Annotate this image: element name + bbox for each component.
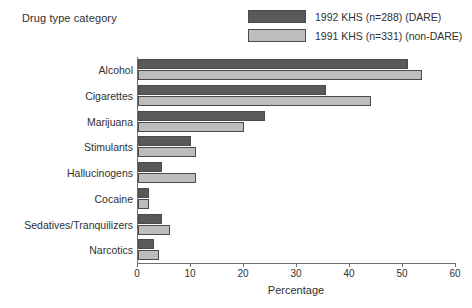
bar-dare[interactable] [138, 85, 326, 95]
category-label: Narcotics [89, 244, 133, 256]
legend-label-non-dare: 1991 KHS (n=331) (non-DARE) [315, 30, 462, 42]
bar-group [138, 111, 456, 134]
category-label: Cigarettes [85, 90, 133, 102]
bar-dare[interactable] [138, 188, 149, 198]
x-tick-label: 60 [449, 268, 460, 279]
legend-label-dare: 1992 KHS (n=288) (DARE) [315, 11, 441, 23]
bar-non-dare[interactable] [138, 199, 149, 209]
x-tick-mark [402, 263, 403, 267]
bar-non-dare[interactable] [138, 225, 170, 235]
legend-swatch-non-dare [248, 29, 306, 42]
x-tick-label: 0 [134, 268, 140, 279]
x-tick-mark [190, 263, 191, 267]
bar-dare[interactable] [138, 59, 408, 69]
category-label: Hallucinogens [67, 167, 133, 179]
category-label: Marijuana [87, 116, 133, 128]
bar-dare[interactable] [138, 111, 265, 121]
x-tick-label: 30 [290, 268, 301, 279]
bar-group [138, 136, 456, 159]
bar-group [138, 162, 456, 185]
bar-dare[interactable] [138, 136, 191, 146]
x-tick-mark [137, 263, 138, 267]
x-tick-label: 10 [184, 268, 195, 279]
category-label: Stimulants [84, 141, 133, 153]
legend-swatch-dare [248, 10, 306, 23]
x-tick-label: 20 [237, 268, 248, 279]
x-tick-mark [296, 263, 297, 267]
bar-group [138, 85, 456, 108]
bar-dare[interactable] [138, 162, 162, 172]
x-axis-title: Percentage [137, 284, 455, 296]
category-label: Alcohol [99, 64, 133, 76]
legend-item-dare: 1992 KHS (n=288) (DARE) [248, 8, 470, 25]
bar-non-dare[interactable] [138, 96, 371, 106]
bar-dare[interactable] [138, 214, 162, 224]
x-tick-mark [349, 263, 350, 267]
category-label: Cocaine [94, 193, 133, 205]
chart-plot-area: 0102030405060 [137, 57, 455, 263]
legend-item-non-dare: 1991 KHS (n=331) (non-DARE) [248, 27, 470, 44]
x-tick-label: 50 [396, 268, 407, 279]
x-tick-mark [243, 263, 244, 267]
bar-group [138, 188, 456, 211]
bar-non-dare[interactable] [138, 147, 196, 157]
page-title: Drug type category [22, 12, 117, 24]
chart-legend: 1992 KHS (n=288) (DARE) 1991 KHS (n=331)… [248, 8, 470, 46]
bar-group [138, 59, 456, 82]
bar-non-dare[interactable] [138, 173, 196, 183]
bar-non-dare[interactable] [138, 250, 159, 260]
category-label: Sedatives/Tranquilizers [24, 219, 133, 231]
category-axis-labels: AlcoholCigarettesMarijuanaStimulantsHall… [0, 57, 133, 263]
x-tick-mark [455, 263, 456, 267]
bar-non-dare[interactable] [138, 70, 422, 80]
bar-group [138, 214, 456, 237]
x-tick-label: 40 [343, 268, 354, 279]
bar-group [138, 239, 456, 262]
bar-non-dare[interactable] [138, 122, 244, 132]
bar-dare[interactable] [138, 239, 154, 249]
